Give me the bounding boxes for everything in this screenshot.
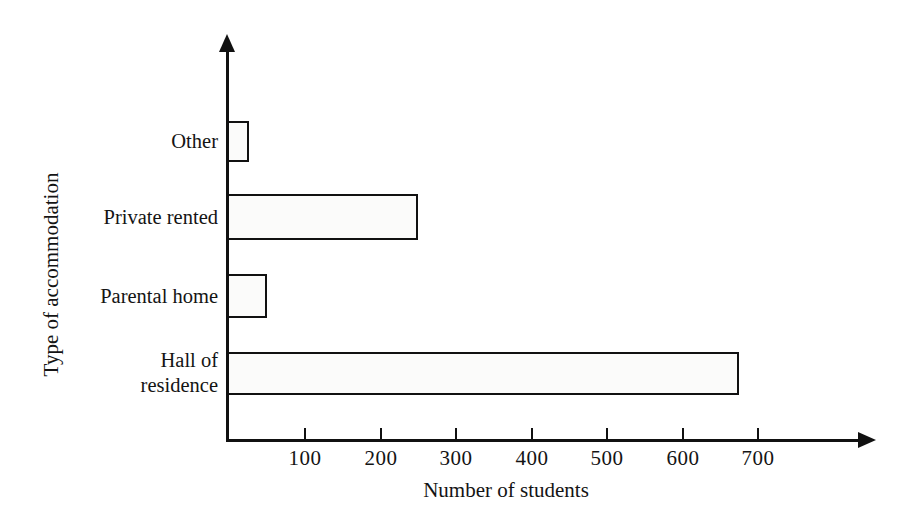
x-axis-tick-label: 200 — [351, 446, 411, 471]
x-axis-title-text: Number of students — [423, 478, 589, 503]
bar-other — [227, 121, 249, 162]
category-label-parental-home: Parental home — [100, 284, 218, 309]
x-axis-tick — [380, 428, 382, 440]
bar-chart: 100 200 300 400 500 600 700 Other Privat… — [0, 0, 912, 524]
x-axis-line — [226, 439, 866, 442]
x-axis-tick-label: 700 — [728, 446, 788, 471]
x-axis-tick-label: 400 — [502, 446, 562, 471]
x-axis-tick — [531, 428, 533, 440]
x-axis-title: Number of students — [0, 478, 912, 503]
y-axis-title: Type of accommodation — [39, 125, 64, 425]
x-axis-tick-label: 300 — [426, 446, 486, 471]
category-label-private-rented: Private rented — [104, 205, 218, 230]
x-axis-tick — [757, 428, 759, 440]
bar-private-rented — [227, 194, 418, 240]
category-label-other: Other — [171, 129, 218, 154]
bar-parental-home — [227, 274, 267, 318]
category-label-hall-of-residence: Hall of residence — [141, 348, 218, 398]
x-axis-tick — [304, 428, 306, 440]
x-axis-tick — [682, 428, 684, 440]
x-axis-tick — [455, 428, 457, 440]
x-axis-tick-label: 600 — [653, 446, 713, 471]
x-axis-tick-label: 500 — [577, 446, 637, 471]
bar-hall-of-residence — [227, 352, 739, 395]
y-axis-arrowhead-icon — [219, 34, 235, 52]
x-axis-arrowhead-icon — [858, 432, 876, 448]
x-axis-tick-label: 100 — [275, 446, 335, 471]
x-axis-tick — [606, 428, 608, 440]
